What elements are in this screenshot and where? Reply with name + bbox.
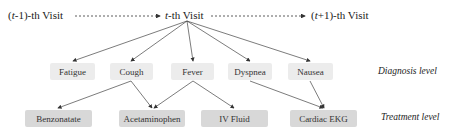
edge-cough-acetaminophen — [131, 81, 152, 108]
treatment-level-label: Treatment level — [381, 112, 439, 122]
treatment-node-acetaminophen: Acetaminophen — [119, 110, 185, 127]
edge-visit-fever — [187, 21, 193, 61]
visit-next-label: (t+1)-th Visit — [311, 9, 369, 21]
diagnosis-node-cough: Cough — [110, 63, 153, 80]
treatment-node-cardiacekg: Cardiac EKG — [290, 110, 357, 127]
diagnosis-node-fatigue: Fatigue — [50, 63, 95, 80]
edge-visit-nausea — [187, 21, 310, 61]
edge-visit-fatigue — [73, 21, 187, 61]
treatment-node-ivfluid: IV Fluid — [201, 110, 268, 127]
visit-current-label: t-th Visit — [165, 9, 204, 21]
diagnosis-level-label: Diagnosis level — [378, 66, 437, 76]
diagnosis-node-dyspnea: Dyspnea — [228, 63, 272, 80]
treatment-node-benzonatate: Benzonatate — [25, 110, 92, 127]
diagnosis-node-fever: Fever — [171, 63, 214, 80]
edge-fever-acetaminophen — [154, 81, 193, 108]
edge-fever-ivfluid — [193, 81, 234, 108]
edge-visit-cough — [131, 21, 187, 61]
diagnosis-node-nausea: Nausea — [288, 63, 333, 80]
edge-visit-dyspnea — [187, 21, 250, 61]
visit-prev-label: (t-1)-th Visit — [8, 9, 63, 21]
edge-cough-benzonatate — [58, 81, 131, 108]
